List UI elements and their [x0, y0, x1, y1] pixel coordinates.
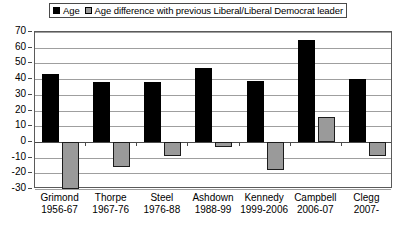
bar-group — [35, 32, 86, 187]
x-category-name: Ashdown — [187, 192, 238, 204]
x-category-name: Campbell — [290, 192, 341, 204]
x-category-years: 1967-76 — [85, 204, 136, 216]
x-category-years: 1988-99 — [187, 204, 238, 216]
x-category-years: 1956-67 — [34, 204, 85, 216]
black-square-icon — [53, 7, 60, 14]
x-category-name: Thorpe — [85, 192, 136, 204]
bar — [93, 82, 110, 142]
bar — [215, 142, 232, 147]
bar — [42, 74, 59, 142]
grey-square-icon — [85, 7, 92, 14]
x-category-years: 1976-88 — [136, 204, 187, 216]
y-tick-label-10: 10 — [15, 120, 26, 130]
bar — [164, 142, 181, 156]
bar — [267, 142, 284, 170]
bar-group — [342, 32, 393, 187]
bar — [62, 142, 79, 189]
y-tick-mark-20 — [28, 110, 32, 111]
x-category-label: Ashdown1988-99 — [187, 192, 238, 216]
bar — [349, 79, 366, 142]
y-tick-mark-30 — [28, 94, 32, 95]
bar — [318, 117, 335, 142]
x-category-label: Campbell2006-07 — [290, 192, 341, 216]
x-category-label: Steel1976-88 — [136, 192, 187, 216]
y-tick-label--30: -30 — [12, 183, 26, 193]
y-tick-mark-0 — [28, 141, 32, 142]
x-category-name: Kennedy — [239, 192, 290, 204]
legend-entry-age-difference: Age difference with previous Liberal/Lib… — [85, 6, 343, 16]
x-category-label: Thorpe1967-76 — [85, 192, 136, 216]
x-category-name: Grimond — [34, 192, 85, 204]
bar — [369, 142, 386, 156]
x-category-label: Clegg2007- — [341, 192, 392, 216]
y-tick-label-30: 30 — [15, 89, 26, 99]
y-tick-mark-50 — [28, 62, 32, 63]
x-category-years: 1999-2006 — [239, 204, 290, 216]
bar — [144, 82, 161, 142]
legend-entry-age: Age — [53, 6, 80, 16]
y-tick-label--20: -20 — [12, 167, 26, 177]
x-category-label: Grimond1956-67 — [34, 192, 85, 216]
x-axis: Grimond1956-67Thorpe1967-76Steel1976-88A… — [34, 192, 392, 222]
bar — [195, 68, 212, 142]
y-tick-mark-70 — [28, 31, 32, 32]
y-tick-label-20: 20 — [15, 105, 26, 115]
y-tick-label--10: -10 — [12, 152, 26, 162]
y-tick-label-60: 60 — [15, 42, 26, 52]
bar-group — [240, 32, 291, 187]
x-category-years: 2006-07 — [290, 204, 341, 216]
y-tick-mark-60 — [28, 47, 32, 48]
x-category-years: 2007- — [341, 204, 392, 216]
x-category-label: Kennedy1999-2006 — [239, 192, 290, 216]
bar — [247, 81, 264, 142]
y-tick-label-0: 0 — [20, 136, 26, 146]
bar — [113, 142, 130, 167]
y-tick-label-50: 50 — [15, 57, 26, 67]
legend-label-age: Age — [63, 6, 80, 16]
chart-legend: Age Age difference with previous Liberal… — [49, 3, 347, 18]
bar-group — [86, 32, 137, 187]
y-tick-label-70: 70 — [15, 26, 26, 36]
y-axis: 706050403020100-10-20-30 — [0, 31, 32, 188]
bar-group — [137, 32, 188, 187]
y-tick-mark--20 — [28, 172, 32, 173]
x-category-name: Clegg — [341, 192, 392, 204]
bar-group — [291, 32, 342, 187]
y-tick-mark--10 — [28, 157, 32, 158]
y-tick-mark--30 — [28, 188, 32, 189]
bar-series-layer — [35, 32, 391, 187]
bar — [298, 40, 315, 142]
plot-area — [34, 31, 392, 188]
gridline--30 — [35, 189, 391, 190]
y-tick-mark-10 — [28, 125, 32, 126]
y-tick-mark-40 — [28, 78, 32, 79]
bar-group — [188, 32, 239, 187]
x-category-name: Steel — [136, 192, 187, 204]
y-tick-label-40: 40 — [15, 73, 26, 83]
legend-label-age-difference: Age difference with previous Liberal/Lib… — [95, 6, 343, 16]
